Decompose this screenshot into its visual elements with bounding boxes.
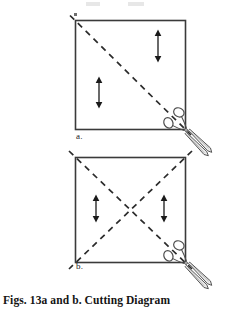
panel-label-a: a. [76,132,83,141]
fabric-square-b [76,158,186,263]
panel-label-b: b. [76,262,83,271]
fabric-square-a [76,21,186,130]
cutting-diagram-figure: a. b. Figs. 13a and b. Cutting Diagram [0,0,244,328]
panel-a-group [70,16,219,164]
diagram-canvas [0,0,244,328]
figure-caption: Figs. 13a and b. Cutting Diagram [3,294,233,307]
panel-b-group [69,151,219,296]
